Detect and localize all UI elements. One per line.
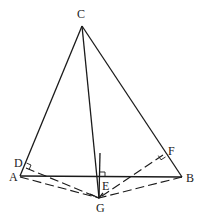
label-C: C: [77, 7, 85, 21]
geometry-diagram: C A B D E F G: [0, 0, 202, 224]
segment-CB: [82, 26, 182, 177]
label-E: E: [102, 179, 109, 193]
dashed-AG: [20, 177, 99, 198]
perpendicular-at-E: [99, 153, 100, 198]
label-F: F: [168, 144, 175, 158]
label-B: B: [186, 171, 194, 185]
dashed-DG: [26, 168, 99, 198]
label-D: D: [14, 156, 23, 170]
segment-AB: [20, 176, 182, 177]
segment-CA: [20, 26, 82, 176]
label-A: A: [9, 170, 18, 184]
label-G: G: [96, 201, 105, 215]
dashed-BG: [99, 177, 182, 198]
segment-CG: [82, 26, 99, 198]
